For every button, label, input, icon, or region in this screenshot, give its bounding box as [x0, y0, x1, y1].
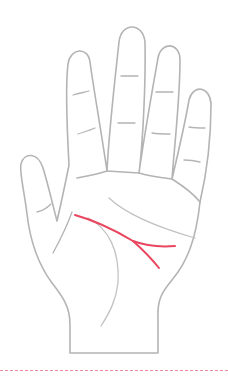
hand-outline-icon — [21, 27, 211, 353]
palm-illustration — [0, 0, 228, 376]
life-line — [88, 218, 118, 326]
head-line-highlight — [75, 215, 175, 246]
heart-line — [109, 198, 195, 238]
finger-base-lines — [77, 171, 200, 202]
dashed-divider — [0, 370, 228, 371]
